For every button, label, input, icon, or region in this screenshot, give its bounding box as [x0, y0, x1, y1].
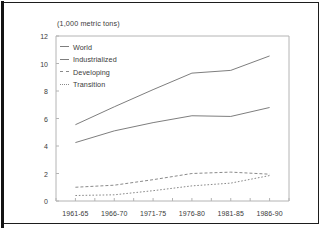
- legend-swatch-icon: [60, 46, 69, 48]
- legend-swatch-icon: [60, 84, 69, 86]
- chart-legend: WorldIndustrializedDevelopingTransition: [60, 41, 150, 91]
- figure-frame: (1,000 metric tons) 121086420 1961-65196…: [3, 2, 319, 224]
- legend-item-transition[interactable]: Transition: [60, 79, 150, 92]
- legend-item-industrialized[interactable]: Industrialized: [60, 54, 150, 67]
- legend-label: World: [73, 43, 92, 52]
- legend-label: Developing: [73, 68, 110, 77]
- legend-item-developing[interactable]: Developing: [60, 66, 150, 79]
- series-line-transition: [75, 176, 269, 196]
- legend-swatch-icon: [60, 59, 69, 61]
- series-line-industrialized: [75, 108, 269, 143]
- legend-item-world[interactable]: World: [60, 41, 150, 54]
- legend-label: Industrialized: [73, 55, 117, 64]
- legend-swatch-icon: [60, 71, 69, 73]
- series-line-developing: [75, 172, 269, 187]
- legend-label: Transition: [73, 80, 105, 89]
- chart-area: (1,000 metric tons) 121086420 1961-65196…: [4, 3, 320, 225]
- plot-canvas: [4, 3, 320, 225]
